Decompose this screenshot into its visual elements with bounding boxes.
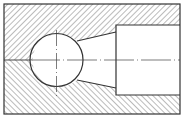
section-drawing [0,0,183,130]
